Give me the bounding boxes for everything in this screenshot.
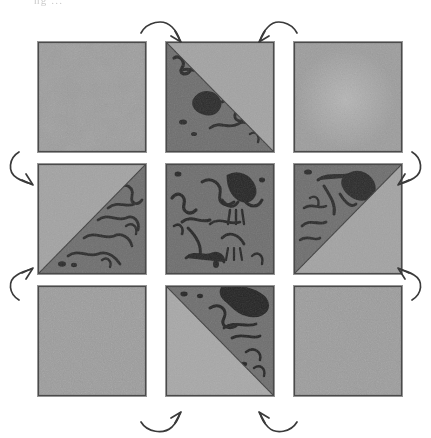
arrow-left-upper-icon <box>10 152 33 185</box>
tile-top-left[interactable] <box>38 42 146 152</box>
arrow-top-left-icon <box>141 22 181 42</box>
tile-middle-right[interactable] <box>294 164 402 274</box>
arrow-top-right-icon <box>259 22 297 42</box>
tile-bottom-center[interactable] <box>166 286 274 396</box>
caption-fragment: ng ... <box>34 0 184 6</box>
tile-bottom-left[interactable] <box>38 286 146 396</box>
tile-grid <box>38 42 390 396</box>
arrow-bottom-right-icon <box>259 412 297 432</box>
tile-bottom-right[interactable] <box>294 286 402 396</box>
tile-center[interactable] <box>166 164 274 274</box>
tile-top-center[interactable] <box>166 42 274 152</box>
arrow-left-lower-icon <box>10 268 33 300</box>
tile-middle-left[interactable] <box>38 164 146 274</box>
tile-grid-figure: ng ... <box>0 0 431 438</box>
tile-top-right[interactable] <box>294 42 402 152</box>
arrow-bottom-left-icon <box>141 412 181 432</box>
